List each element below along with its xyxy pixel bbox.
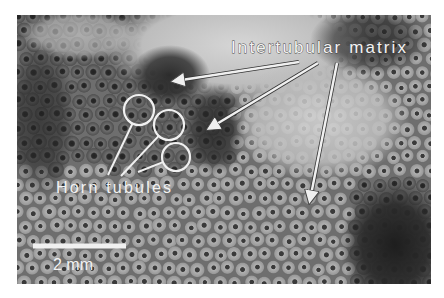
leader-line-2 <box>121 136 159 176</box>
arrow-3 <box>310 63 337 200</box>
tubule-circle-3 <box>162 143 190 171</box>
leader-line-3 <box>138 162 163 172</box>
horn-tubules-label: Horn tubules <box>56 179 171 196</box>
tubule-circle-2 <box>154 110 184 140</box>
horn-tubule-circles <box>108 95 190 176</box>
micrograph-image: 2 mm Intertubular matrix Horn tubules <box>17 15 431 284</box>
scale-bar-label: 2 mm <box>53 256 93 273</box>
tubule-circle-1 <box>124 95 154 125</box>
intertubular-matrix-label: Intertubular matrix <box>231 38 407 57</box>
annotation-layer: 2 mm Intertubular matrix Horn tubules <box>17 15 431 284</box>
intertubular-arrows <box>175 62 337 200</box>
arrow-1 <box>175 62 299 81</box>
